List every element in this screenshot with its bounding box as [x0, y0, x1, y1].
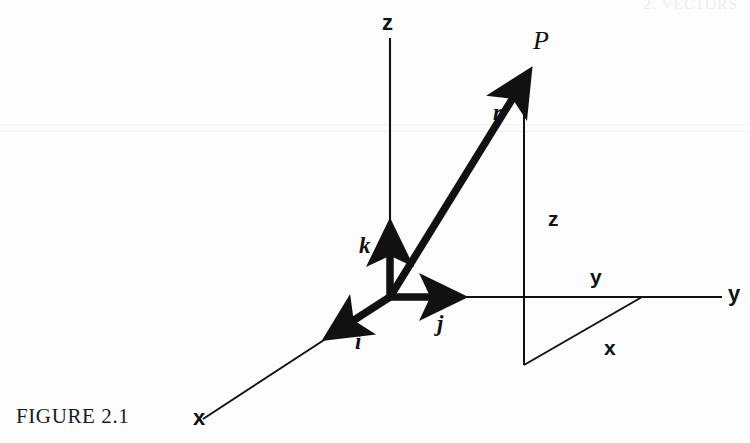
i-unit-vector-label: i: [355, 330, 361, 353]
coordinate-system-diagram: [0, 0, 750, 443]
figure-caption: FIGURE 2.1: [16, 404, 129, 429]
x-coordinate-label: x: [604, 337, 616, 358]
i-unit-vector-arrow: [348, 295, 393, 324]
r-vector-label: r: [493, 101, 502, 124]
y-axis-label: y: [728, 283, 740, 305]
x-projection-line: [524, 297, 642, 365]
y-coordinate-label: y: [590, 266, 602, 287]
point-p-label: P: [533, 28, 549, 54]
k-unit-vector-label: k: [359, 234, 371, 257]
z-coordinate-label: z: [548, 208, 559, 229]
figure-page: 2. VECTORS z y x k j i r P: [0, 0, 750, 443]
z-axis-label: z: [382, 12, 393, 34]
x-axis-label: x: [193, 407, 205, 429]
j-unit-vector-label: j: [437, 312, 443, 335]
